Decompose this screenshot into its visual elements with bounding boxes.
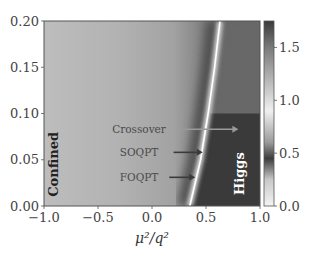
colorbar bbox=[264, 21, 274, 206]
colorbar-tick-label: 1.5 bbox=[279, 40, 300, 55]
x-tick-label: −0.5 bbox=[82, 210, 114, 225]
colorbar-ticks: 0.00.51.01.5 bbox=[274, 40, 300, 214]
y-tick-label: 0.20 bbox=[10, 14, 39, 29]
x-axis-label: μ²/q² bbox=[135, 230, 169, 246]
colorbar-tick-label: 1.0 bbox=[279, 93, 300, 108]
region-label-confined: Confined bbox=[46, 132, 61, 197]
phase-diagram-chart: CrossoverSOQPTFOQPT ConfinedHiggs −1.0−0… bbox=[0, 0, 310, 260]
y-tick-label: 0.05 bbox=[10, 152, 39, 167]
colorbar-tick-label: 0.0 bbox=[279, 199, 300, 214]
colorbar-tick-label: 0.5 bbox=[279, 146, 300, 161]
annotation-label-soqpt: SOQPT bbox=[120, 146, 158, 158]
x-tick-label: 1.0 bbox=[250, 210, 271, 225]
annotation-label-foqpt: FOQPT bbox=[120, 171, 159, 183]
x-tick-label: 0.0 bbox=[142, 210, 163, 225]
x-tick-label: 0.5 bbox=[196, 210, 217, 225]
y-tick-label: 0.15 bbox=[10, 60, 39, 75]
y-tick-label: 0.00 bbox=[10, 199, 39, 214]
region-label-higgs: Higgs bbox=[232, 152, 247, 195]
annotation-label-crossover: Crossover bbox=[112, 123, 167, 135]
x-axis: −1.0−0.50.00.51.0 bbox=[28, 206, 270, 225]
y-tick-label: 0.10 bbox=[10, 106, 39, 121]
y-axis: 0.000.050.100.150.20 bbox=[10, 14, 44, 214]
